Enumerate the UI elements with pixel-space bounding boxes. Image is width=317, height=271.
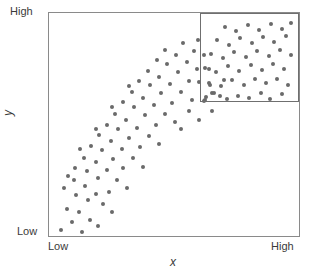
data-point [219, 84, 223, 88]
data-point [253, 77, 257, 81]
data-point [223, 25, 227, 29]
data-point [196, 38, 200, 42]
data-point [215, 38, 219, 42]
scatter-plot-figure: High Low Low High y x [0, 0, 317, 271]
data-point [212, 91, 216, 95]
data-points-layer [49, 13, 299, 236]
data-point [125, 186, 129, 190]
data-point [101, 202, 105, 206]
data-point [89, 144, 93, 148]
data-point [96, 176, 100, 180]
data-point [249, 63, 253, 67]
plot-area-frame [48, 12, 300, 237]
data-point [227, 43, 231, 47]
data-point [110, 105, 114, 109]
data-point [225, 97, 229, 101]
data-point [187, 79, 191, 83]
data-point [120, 147, 124, 151]
data-point [88, 218, 92, 222]
data-point [185, 60, 189, 64]
data-point [260, 68, 264, 72]
data-point [96, 224, 100, 228]
data-point [218, 94, 222, 98]
data-point [94, 160, 98, 164]
data-point [73, 166, 77, 170]
data-point [127, 136, 131, 140]
data-point [107, 190, 111, 194]
data-point [165, 62, 169, 66]
data-point [271, 62, 275, 66]
data-point [269, 22, 273, 26]
data-point [131, 156, 135, 160]
data-point [130, 90, 134, 94]
data-point [267, 54, 271, 58]
data-point [238, 36, 242, 40]
data-point [181, 41, 185, 45]
y-axis-high-label: High [10, 6, 33, 17]
data-point [111, 157, 115, 161]
data-point [78, 147, 82, 151]
y-axis-title: y [2, 110, 14, 116]
data-point [82, 156, 86, 160]
data-point [250, 41, 254, 45]
data-point [143, 113, 147, 117]
data-point [207, 67, 211, 71]
data-point [105, 168, 109, 172]
data-point [127, 84, 131, 88]
data-point [179, 90, 183, 94]
data-point [278, 48, 282, 52]
data-point [289, 53, 293, 57]
data-point [275, 77, 279, 81]
data-point [132, 105, 136, 109]
data-point [272, 40, 276, 44]
data-point [286, 83, 290, 87]
data-point [154, 123, 158, 127]
data-point [179, 127, 183, 131]
data-point [138, 145, 142, 149]
data-point [157, 75, 161, 79]
data-point [146, 69, 150, 73]
data-point [264, 81, 268, 85]
data-point [155, 58, 159, 62]
data-point [121, 100, 125, 104]
data-point [168, 82, 172, 86]
data-point [226, 64, 230, 68]
data-point [202, 53, 206, 57]
data-point [115, 178, 119, 182]
data-point [141, 165, 145, 169]
data-point [187, 109, 191, 113]
data-point [121, 166, 125, 170]
data-point [66, 174, 70, 178]
data-point [237, 69, 241, 73]
data-point [234, 29, 238, 33]
data-point [70, 220, 74, 224]
data-point [86, 198, 90, 202]
data-point [77, 210, 81, 214]
data-point [209, 52, 213, 56]
data-point [282, 67, 286, 71]
data-point [163, 112, 167, 116]
data-point [236, 94, 240, 98]
data-point [203, 98, 207, 102]
data-point [190, 98, 194, 102]
data-point [210, 109, 214, 113]
data-point [72, 178, 76, 182]
data-point [65, 207, 69, 211]
data-point [244, 55, 248, 59]
data-point [137, 79, 141, 83]
data-point [195, 67, 199, 71]
data-point [85, 169, 89, 173]
data-point [74, 193, 78, 197]
data-point [148, 83, 152, 87]
data-point [80, 230, 84, 234]
data-point [110, 210, 114, 214]
data-point [222, 78, 226, 82]
data-point [62, 186, 66, 190]
data-point [242, 83, 246, 87]
data-point [280, 27, 284, 31]
data-point [257, 28, 261, 32]
y-axis-low-label: Low [17, 226, 37, 237]
data-point [255, 49, 259, 53]
data-point [141, 96, 145, 100]
data-point [230, 78, 234, 82]
